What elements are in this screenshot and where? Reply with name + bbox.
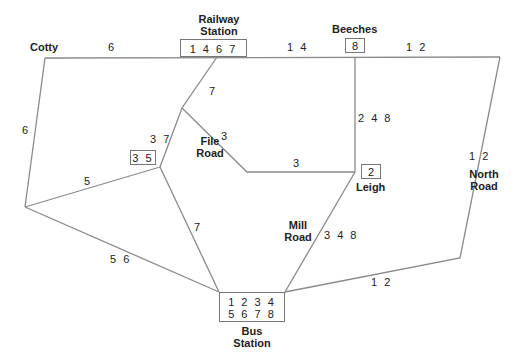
bus-stops-row-1: 1 2 3 4 [220,296,284,308]
route-label-file-road-upper: 3 7 [150,133,171,145]
place-label-line: North [464,168,504,180]
west-file-road [25,167,160,207]
place-label-line: Station [222,337,282,349]
place-leigh: Leigh [356,181,385,193]
route-label-bus-east: 1 2 [371,276,392,288]
route-label-beeches-leigh: 2 4 8 [358,112,392,124]
route-label-railway-file: 7 [209,85,217,97]
place-label-line: Railway [186,13,252,25]
route-label-cotty-west: 6 [22,124,30,136]
bus-stops-row-2: 5 6 7 8 [220,308,284,320]
place-label-line: Bus [222,325,282,337]
stop-box-bus-station: 1 2 3 4 5 6 7 8 [219,292,285,322]
stop-box-railway-station: 1 4 6 7 [180,39,247,57]
route-label-west-bus: 5 6 [110,253,131,265]
file-bus-road [160,167,219,292]
place-beeches: Beeches [332,23,377,35]
place-label-line: Road [464,180,504,192]
place-mill-road: Mill Road [277,219,319,243]
west-bus-road [25,207,219,292]
route-label-beeches-east: 1 2 [406,41,427,53]
place-cotty: Cotty [30,41,58,53]
route-label-west-file: 5 [84,175,92,187]
route-label-north-road: 1 2 [469,150,490,162]
place-label-line: Mill [277,219,319,231]
route-label-railway-beeches: 1 4 [287,41,308,53]
route-label-file-leigh-diag: 3 [221,130,229,142]
route-label-file-leigh-horiz: 3 [293,157,301,169]
place-railway-station: Railway Station [186,13,252,37]
place-label-line: Station [186,25,252,37]
route-label-cotty-railway: 6 [108,41,116,53]
route-label-mill-road: 3 4 8 [324,229,358,241]
stop-box-leigh: 2 [361,164,381,179]
place-bus-station: Bus Station [222,325,282,349]
stop-box-beeches: 8 [345,38,365,53]
place-label-line: Road [190,147,230,159]
top-road [45,57,500,58]
place-north-road: North Road [464,168,504,192]
stop-box-file-road: 3 5 [130,150,156,165]
route-label-file-bus: 7 [194,221,202,233]
place-label-line: Road [277,231,319,243]
